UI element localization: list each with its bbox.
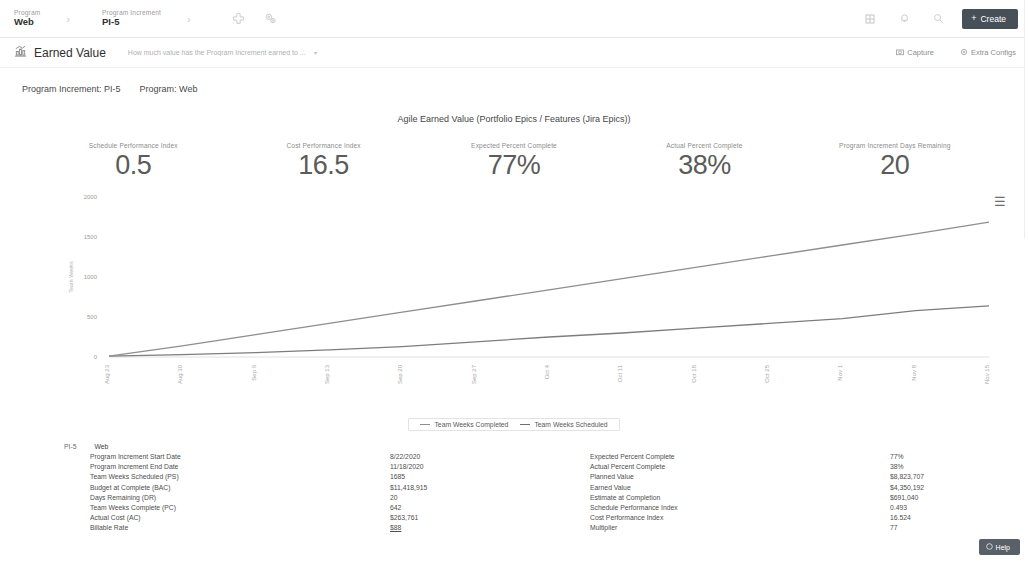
chart-report-icon [14, 44, 27, 62]
svg-text:Sep 27: Sep 27 [471, 364, 477, 384]
svg-text:Nov 15: Nov 15 [984, 364, 990, 384]
earned-value-line-chart: 0500100015002000Team WeeksAug 23Aug 30Se… [14, 189, 1014, 414]
table-left-labels: Program Increment Start Date Program Inc… [90, 452, 390, 534]
svg-text:0: 0 [94, 354, 98, 360]
svg-text:500: 500 [87, 314, 98, 320]
context-line: Program Increment: PI-5 Program: Web [22, 84, 1014, 94]
hamburger-menu-icon[interactable]: ☰ [994, 195, 1006, 208]
table-row: Actual Percent Complete [590, 462, 890, 472]
table-cell: 8/22/2020 [390, 452, 590, 462]
table-row: Schedule Performance Index [590, 503, 890, 513]
svg-text:Oct 11: Oct 11 [617, 364, 623, 382]
table-cell: 642 [390, 503, 590, 513]
table-cell: 77 [890, 523, 1028, 533]
breadcrumb-program-value: Web [14, 17, 40, 28]
table-cell: 38% [890, 462, 1028, 472]
table-cell: $8,823,707 [890, 472, 1028, 482]
help-icon [986, 543, 993, 551]
kpi-value: 20 [800, 150, 990, 181]
table-row: Multiplier [590, 523, 890, 533]
kpi-label: Program Increment Days Remaining [800, 142, 990, 149]
table-cell: 1685 [390, 472, 590, 482]
bell-icon[interactable] [894, 9, 914, 29]
breadcrumb-program-increment[interactable]: Program Increment PI-5 [102, 9, 161, 27]
extra-configs-label: Extra Configs [971, 48, 1016, 57]
extra-configs-button[interactable]: Extra Configs [960, 48, 1016, 58]
table-header-row: PI-5 Web [64, 443, 1014, 450]
right-edge-strip [1024, 0, 1028, 238]
table-row: Budget at Complete (BAC) [90, 483, 390, 493]
kpi-value: 0.5 [38, 150, 228, 181]
legend-item-team-weeks-completed[interactable]: Team Weeks Completed [420, 421, 508, 428]
legend-swatch-line-icon [520, 424, 530, 425]
help-button-label: Help [996, 544, 1010, 551]
capture-label: Capture [907, 48, 934, 57]
kpi-label: Actual Percent Complete [609, 142, 799, 149]
table-columns: Program Increment Start Date Program Inc… [64, 452, 1014, 534]
report-body: Program Increment: PI-5 Program: Web Agi… [0, 84, 1028, 534]
kpi-schedule-performance-index: Schedule Performance Index 0.5 [38, 142, 228, 181]
page-header: Earned Value How much value has the Prog… [0, 38, 1028, 68]
kpi-value: 16.5 [228, 150, 418, 181]
legend-item-team-weeks-scheduled[interactable]: Team Weeks Scheduled [520, 421, 607, 428]
table-right-labels: Expected Percent Complete Actual Percent… [590, 452, 890, 534]
search-icon[interactable] [928, 9, 948, 29]
table-row: Program Increment Start Date [90, 452, 390, 462]
svg-text:Team Weeks: Team Weeks [68, 261, 74, 293]
kpi-value: 38% [609, 150, 799, 181]
chart-title: Agile Earned Value (Portfolio Epics / Fe… [14, 114, 1014, 124]
breadcrumb-separator-1: › [66, 13, 70, 25]
kpi-program-increment-days-remaining: Program Increment Days Remaining 20 [800, 142, 990, 181]
kpi-actual-percent-complete: Actual Percent Complete 38% [609, 142, 799, 181]
svg-text:Oct 25: Oct 25 [764, 364, 770, 382]
svg-text:Nov 1: Nov 1 [837, 364, 843, 380]
table-cell: $263,761 [390, 513, 590, 523]
table-row: Estimate at Completion [590, 493, 890, 503]
table-row: Days Remaining (DR) [90, 493, 390, 503]
help-button[interactable]: Help [979, 539, 1020, 555]
kpi-label: Expected Percent Complete [419, 142, 609, 149]
table-column-right: Expected Percent Complete Actual Percent… [590, 452, 1028, 534]
kpi-row: Schedule Performance Index 0.5 Cost Perf… [14, 142, 1014, 181]
chevron-down-icon[interactable]: ▾ [314, 49, 317, 56]
table-cell: 11/18/2020 [390, 462, 590, 472]
svg-text:Sep 6: Sep 6 [251, 364, 257, 380]
create-button[interactable]: + Create [962, 9, 1018, 29]
table-row: Program Increment End Date [90, 462, 390, 472]
table-program-increment: PI-5 [64, 443, 76, 450]
create-button-label: Create [980, 14, 1006, 24]
legend-label: Team Weeks Scheduled [534, 421, 607, 428]
chart-legend: Team Weeks Completed Team Weeks Schedule… [408, 418, 620, 431]
plus-icon: + [971, 14, 976, 23]
breadcrumb-program[interactable]: Program Web [14, 9, 40, 27]
data-table: PI-5 Web Program Increment Start Date Pr… [14, 443, 1014, 534]
settings-icon [960, 48, 968, 58]
grid-icon[interactable] [860, 9, 880, 29]
kpi-expected-percent-complete: Expected Percent Complete 77% [419, 142, 609, 181]
capture-button[interactable]: Capture [896, 48, 934, 58]
camera-icon [896, 48, 904, 58]
legend-swatch-line-icon [420, 424, 430, 425]
legend-label: Team Weeks Completed [434, 421, 508, 428]
table-row: Planned Value [590, 472, 890, 482]
svg-text:1500: 1500 [84, 234, 98, 240]
table-left-values: 8/22/2020 11/18/2020 1685 $11,418,915 20… [390, 452, 590, 534]
page-title: Earned Value [34, 46, 106, 60]
table-cell: $88 [390, 523, 590, 533]
svg-text:Aug 23: Aug 23 [104, 364, 110, 384]
svg-text:Nov 8: Nov 8 [911, 364, 917, 380]
table-row: Cost Performance Index [590, 513, 890, 523]
table-program: Web [94, 443, 108, 450]
kpi-cost-performance-index: Cost Performance Index 16.5 [228, 142, 418, 181]
app-topbar: Program Web › Program Increment PI-5 › [0, 0, 1028, 38]
svg-text:1000: 1000 [84, 274, 98, 280]
table-cell: $691,040 [890, 493, 1028, 503]
gears-icon[interactable] [261, 9, 281, 29]
svg-text:Sep 20: Sep 20 [397, 364, 403, 384]
kpi-label: Schedule Performance Index [38, 142, 228, 149]
add-circle-icon[interactable] [229, 9, 249, 29]
table-right-values: 77% 38% $8,823,707 $4,350,192 $691,040 0… [890, 452, 1028, 534]
page-subtitle: How much value has the Program Increment… [128, 49, 306, 56]
table-cell: 77% [890, 452, 1028, 462]
table-row: Actual Cost (AC) [90, 513, 390, 523]
